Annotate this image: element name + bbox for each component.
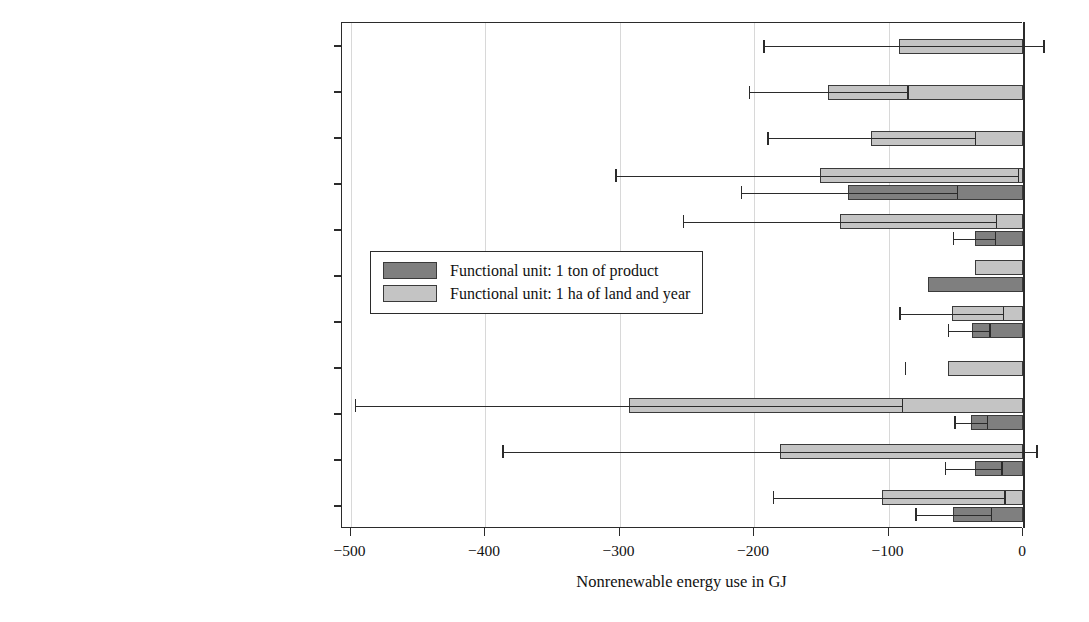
error-bar-cap bbox=[954, 416, 955, 429]
error-bar-line bbox=[615, 176, 1017, 177]
legend-label: Functional unit: 1 ha of land and year bbox=[450, 286, 690, 302]
y-axis-tick bbox=[334, 137, 342, 138]
x-axis-tick-label: −200 bbox=[737, 542, 769, 560]
error-bar-line bbox=[945, 469, 1001, 470]
chart-legend: Functional unit: 1 ton of productFunctio… bbox=[370, 251, 703, 314]
error-bar-line bbox=[899, 314, 1003, 315]
error-bar-cap bbox=[767, 132, 768, 145]
error-bar-cap bbox=[996, 215, 997, 228]
error-bar-cap bbox=[945, 462, 946, 475]
error-bar-cap bbox=[1004, 491, 1005, 504]
error-bar-cap bbox=[502, 445, 503, 458]
error-bar-cap bbox=[902, 399, 903, 412]
y-axis-tick bbox=[334, 459, 342, 460]
error-bar-cap bbox=[987, 416, 988, 429]
gridline bbox=[351, 23, 352, 527]
error-bar-cap bbox=[975, 132, 976, 145]
error-bar-cap bbox=[1043, 40, 1044, 53]
error-bar-cap bbox=[615, 169, 616, 182]
error-bar-cap bbox=[995, 232, 996, 245]
error-bar-cap bbox=[953, 232, 954, 245]
x-axis-tick bbox=[1022, 528, 1023, 536]
x-axis-tick bbox=[888, 528, 889, 536]
error-bar-line bbox=[767, 138, 974, 139]
x-axis-tick-label: −300 bbox=[603, 542, 635, 560]
y-axis-tick bbox=[334, 275, 342, 276]
y-axis-tick bbox=[334, 321, 342, 322]
error-bar-line bbox=[683, 222, 996, 223]
error-bar-cap bbox=[905, 362, 906, 375]
x-axis-tick bbox=[484, 528, 485, 536]
y-axis-tick bbox=[334, 183, 342, 184]
legend-item: Functional unit: 1 ton of product bbox=[383, 259, 690, 282]
error-bar-cap bbox=[899, 307, 900, 320]
nonrenewable-energy-bar-chart: Biofuels (0, 19)Bioenergy (0, 22)Floorbo… bbox=[0, 0, 1089, 622]
x-axis-tick-label: −100 bbox=[872, 542, 904, 560]
x-axis-tick bbox=[753, 528, 754, 536]
error-bar-line bbox=[502, 452, 1036, 453]
error-bar-line bbox=[741, 193, 958, 194]
error-bar-cap bbox=[957, 186, 958, 199]
x-axis-tick bbox=[350, 528, 351, 536]
error-bar-cap bbox=[773, 491, 774, 504]
x-axis-tick-label: −500 bbox=[334, 542, 366, 560]
error-bar-cap bbox=[907, 86, 908, 99]
error-bar-cap bbox=[991, 508, 992, 521]
y-axis-tick bbox=[334, 229, 342, 230]
error-bar-cap bbox=[749, 86, 750, 99]
error-bar-line bbox=[948, 331, 990, 332]
y-axis-tick bbox=[334, 91, 342, 92]
x-axis-tick bbox=[619, 528, 620, 536]
x-axis-title: Nonrenewable energy use in GJ bbox=[341, 572, 1022, 592]
legend-swatch-ha bbox=[383, 285, 437, 302]
bar-ha bbox=[975, 260, 1023, 275]
error-bar-cap bbox=[355, 399, 356, 412]
bar-ha bbox=[948, 361, 1023, 376]
error-bar-line bbox=[954, 423, 986, 424]
error-bar-line bbox=[915, 515, 990, 516]
error-bar-cap bbox=[683, 215, 684, 228]
error-bar-cap bbox=[948, 324, 949, 337]
legend-label: Functional unit: 1 ton of product bbox=[450, 263, 658, 279]
bar-ton bbox=[928, 277, 1023, 292]
category-label-column: Biofuels (0, 19)Bioenergy (0, 22)Floorbo… bbox=[0, 0, 332, 560]
error-bar-line bbox=[355, 406, 902, 407]
error-bar-cap bbox=[989, 324, 990, 337]
error-bar-cap bbox=[915, 508, 916, 521]
error-bar-line bbox=[749, 92, 908, 93]
y-axis-tick bbox=[334, 413, 342, 414]
error-bar-line bbox=[763, 46, 1043, 47]
error-bar-line bbox=[773, 498, 1004, 499]
legend-item: Functional unit: 1 ha of land and year bbox=[383, 282, 690, 305]
x-axis-tick-label: 0 bbox=[1018, 542, 1026, 560]
y-axis-tick bbox=[334, 505, 342, 506]
x-axis-tick-label: −400 bbox=[468, 542, 500, 560]
y-axis-tick bbox=[334, 45, 342, 46]
error-bar-cap bbox=[1001, 462, 1002, 475]
error-bar-cap bbox=[1018, 169, 1019, 182]
error-bar-cap bbox=[741, 186, 742, 199]
legend-swatch-ton bbox=[383, 262, 437, 279]
y-axis-tick bbox=[334, 367, 342, 368]
error-bar-cap bbox=[763, 40, 764, 53]
error-bar-cap bbox=[1036, 445, 1037, 458]
error-bar-cap bbox=[1003, 307, 1004, 320]
error-bar-line bbox=[953, 239, 995, 240]
